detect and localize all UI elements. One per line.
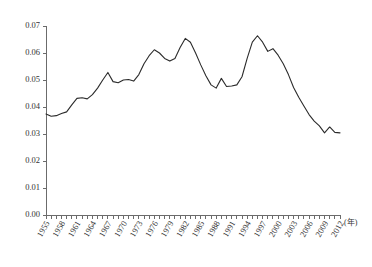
y-tick-label: 0.02 xyxy=(25,155,40,165)
chart-canvas: 0.000.010.020.030.040.050.060.07 1955195… xyxy=(0,0,372,267)
y-tick-label: 0.01 xyxy=(25,182,40,192)
y-tick-label: 0.07 xyxy=(25,20,40,30)
y-tick-label: 0.05 xyxy=(25,74,40,84)
line-chart: 0.000.010.020.030.040.050.060.07 1955195… xyxy=(0,0,372,267)
y-tick-label: 0.03 xyxy=(25,128,40,138)
x-axis-unit-label: (年) xyxy=(344,217,358,227)
x-unit-label: (年) xyxy=(344,217,358,227)
y-tick-label: 0.04 xyxy=(25,101,41,111)
y-tick-label: 0.00 xyxy=(25,209,40,219)
y-tick-label: 0.06 xyxy=(25,47,40,57)
